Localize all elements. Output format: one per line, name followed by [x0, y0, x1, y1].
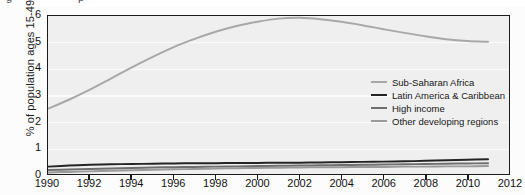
x-axis-tick-mark	[130, 175, 132, 180]
x-axis-tick-mark	[257, 175, 259, 180]
legend-item: Latin America & Caribbean	[371, 89, 511, 101]
x-axis-tick-mark	[425, 175, 427, 180]
legend-item: Other developing regions	[371, 115, 511, 127]
legend-swatch-icon	[371, 81, 387, 84]
chart-legend: Sub-Saharan AfricaLatin America & Caribb…	[371, 76, 511, 128]
legend-item: High income	[371, 102, 511, 114]
x-axis-tick-mark	[341, 175, 343, 180]
legend-swatch-icon	[371, 120, 387, 123]
legend-swatch-icon	[371, 107, 387, 110]
x-axis-tick-mark	[299, 175, 301, 180]
x-axis-tick-mark	[88, 175, 90, 180]
legend-label: High income	[392, 103, 445, 114]
chart-figure: g p % of population ages 15-49 0123456 1…	[0, 0, 525, 195]
legend-swatch-icon	[371, 94, 387, 97]
legend-label: Sub-Saharan Africa	[392, 77, 474, 88]
x-axis-tick-label: 2012	[488, 177, 525, 189]
x-axis-tick-mark	[215, 175, 217, 180]
x-axis-tick-mark	[467, 175, 469, 180]
legend-item: Sub-Saharan Africa	[371, 76, 511, 88]
x-axis-tick-mark	[173, 175, 175, 180]
legend-label: Other developing regions	[392, 116, 498, 127]
x-axis-tick-mark	[383, 175, 385, 180]
legend-label: Latin America & Caribbean	[392, 90, 505, 101]
x-axis-tick-label: 1990	[25, 177, 69, 189]
